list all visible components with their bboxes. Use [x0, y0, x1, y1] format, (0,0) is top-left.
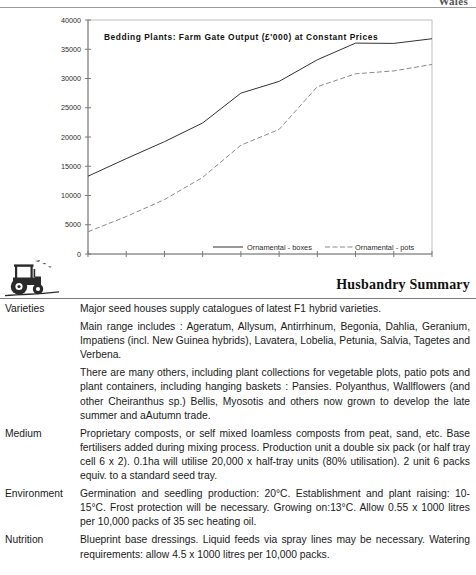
y-tick-label: 40000	[61, 16, 81, 25]
chart-container: 0500010000150002000025000300003500040000…	[0, 10, 476, 260]
y-tick-label: 20000	[61, 133, 81, 142]
section-row: EnvironmentGermination and seedling prod…	[0, 487, 476, 529]
series-line-1	[88, 64, 432, 231]
y-tick-label: 35000	[61, 45, 81, 54]
section-paragraph: Proprietary composts, or self mixed loam…	[80, 427, 470, 483]
section-paragraph: Blueprint base dressings. Liquid feeds v…	[80, 533, 470, 561]
y-tick-label: 5000	[65, 220, 81, 229]
husbandry-content: VarietiesMajor seed houses supply catalo…	[0, 302, 476, 566]
chart-legend: Ornamental - boxesOrnamental - pots	[213, 243, 414, 252]
y-tick-label: 10000	[61, 191, 81, 200]
section-label: Environment	[0, 487, 80, 501]
y-tick-label: 15000	[61, 162, 81, 171]
series-line-0	[88, 39, 432, 176]
section-body: Germination and seedling production: 20°…	[80, 487, 476, 529]
husbandry-summary-band: Husbandry Summary	[0, 256, 476, 300]
section-body: Proprietary composts, or self mixed loam…	[80, 427, 476, 483]
section-row: VarietiesMajor seed houses supply catalo…	[0, 302, 476, 423]
tractor-icon	[4, 258, 60, 298]
line-chart: 0500010000150002000025000300003500040000…	[0, 10, 476, 260]
header-rule	[0, 7, 476, 8]
husbandry-summary-heading: Husbandry Summary	[336, 277, 470, 293]
section-body: Major seed houses supply catalogues of l…	[80, 302, 476, 423]
page-header: Wales	[0, 0, 476, 9]
section-body: Blueprint base dressings. Liquid feeds v…	[80, 533, 476, 561]
section-label: Nutrition	[0, 533, 80, 547]
section-paragraph: Main range includes : Ageratum, Allysum,…	[80, 320, 470, 362]
summary-band-rule	[0, 298, 476, 299]
section-paragraph: Major seed houses supply catalogues of l…	[80, 302, 470, 316]
section-paragraph: There are many others, including plant c…	[80, 366, 470, 422]
section-label: Varieties	[0, 302, 80, 316]
y-tick-label: 25000	[61, 103, 81, 112]
section-paragraph: Germination and seedling production: 20°…	[80, 487, 470, 529]
section-row: MediumProprietary composts, or self mixe…	[0, 427, 476, 483]
chart-title: Bedding Plants: Farm Gate Output (£'000)…	[104, 32, 378, 42]
y-tick-label: 30000	[61, 74, 81, 83]
section-label: Medium	[0, 427, 80, 441]
chart-series-group	[88, 39, 432, 232]
y-axis-ticks: 0500010000150002000025000300003500040000	[61, 16, 91, 259]
legend-label-1: Ornamental - pots	[355, 243, 414, 252]
header-cut-text: Wales	[438, 0, 468, 7]
section-row: NutritionBlueprint base dressings. Liqui…	[0, 533, 476, 561]
legend-label-0: Ornamental - boxes	[247, 243, 312, 252]
